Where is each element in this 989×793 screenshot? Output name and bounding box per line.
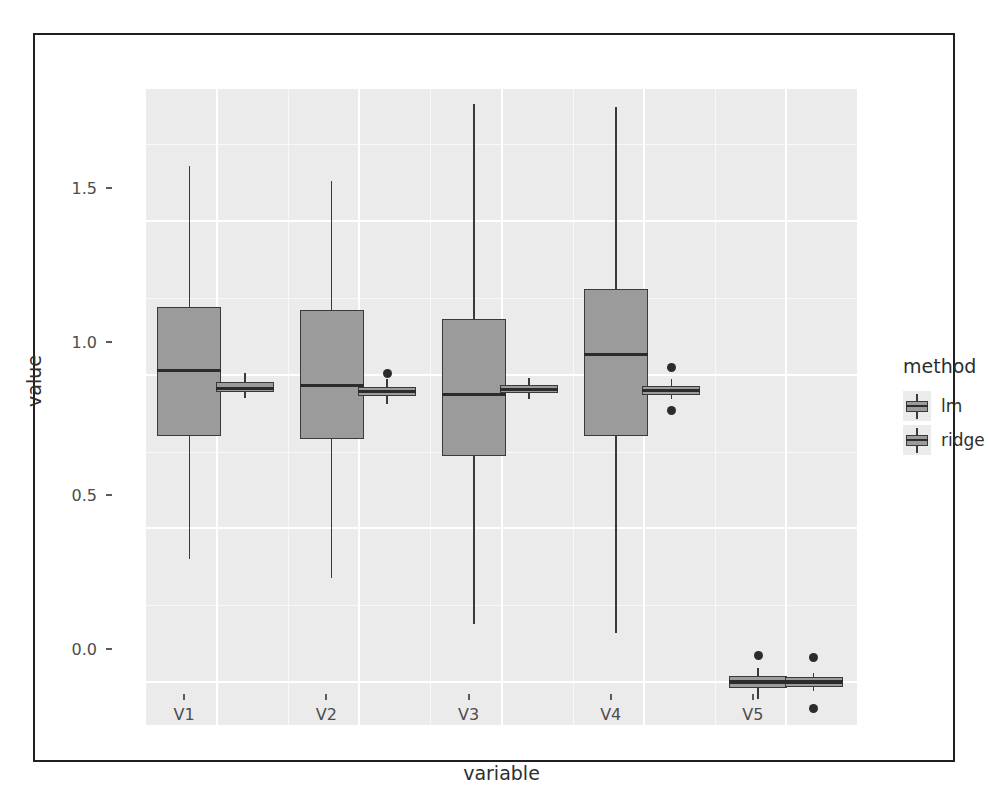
whisker-upper bbox=[244, 373, 246, 382]
legend-label: lm bbox=[941, 396, 962, 416]
legend-items: lmridge bbox=[903, 389, 989, 457]
whisker-upper bbox=[331, 181, 333, 310]
legend-item-ridge[interactable]: ridge bbox=[903, 423, 989, 457]
outlier-point bbox=[383, 369, 392, 378]
box bbox=[584, 289, 648, 436]
whisker-lower bbox=[244, 392, 246, 398]
chart-figure: value 0.00.51.01.5 V1V2V3V4V5 variable m… bbox=[0, 0, 989, 793]
legend: method lmridge bbox=[903, 355, 989, 457]
whisker-upper bbox=[671, 379, 673, 386]
gridline-x-major bbox=[785, 89, 787, 725]
whisker-lower bbox=[813, 687, 815, 692]
x-tick-label-v3: V3 bbox=[458, 705, 479, 724]
x-tick-mark bbox=[325, 694, 327, 700]
gridline-x-minor bbox=[288, 89, 289, 725]
outlier-point bbox=[667, 363, 676, 372]
whisker-upper bbox=[528, 378, 530, 385]
y-tick-mark bbox=[106, 494, 112, 496]
whisker-upper bbox=[189, 166, 191, 307]
whisker-upper bbox=[615, 107, 617, 288]
median-line bbox=[300, 384, 364, 387]
outlier-point bbox=[809, 704, 818, 713]
legend-whisker-up bbox=[916, 394, 918, 401]
median-line bbox=[584, 353, 648, 356]
median-line bbox=[500, 388, 558, 391]
figure-border: value 0.00.51.01.5 V1V2V3V4V5 variable m… bbox=[33, 33, 955, 762]
x-axis-title: variable bbox=[146, 762, 857, 784]
legend-median bbox=[906, 439, 928, 441]
legend-key-icon bbox=[903, 391, 931, 421]
whisker-lower bbox=[331, 439, 333, 577]
median-line bbox=[358, 390, 416, 393]
whisker-lower bbox=[528, 393, 530, 399]
box bbox=[300, 310, 364, 439]
median-line bbox=[442, 393, 506, 396]
legend-whisker-up bbox=[916, 428, 918, 435]
legend-item-lm[interactable]: lm bbox=[903, 389, 989, 423]
whisker-upper bbox=[386, 379, 388, 387]
outlier-point bbox=[667, 406, 676, 415]
gridline-x-minor bbox=[573, 89, 574, 725]
y-tick-label: 0.0 bbox=[72, 639, 97, 658]
median-line bbox=[785, 680, 843, 683]
y-tick-mark bbox=[106, 341, 112, 343]
legend-title: method bbox=[903, 355, 989, 377]
x-tick-label-v1: V1 bbox=[174, 705, 195, 724]
legend-whisker-down bbox=[916, 412, 918, 419]
median-line bbox=[157, 369, 221, 372]
whisker-lower bbox=[386, 396, 388, 404]
x-tick-mark bbox=[183, 694, 185, 700]
y-tick-label: 0.5 bbox=[72, 486, 97, 505]
whisker-upper bbox=[473, 104, 475, 319]
legend-median bbox=[906, 405, 928, 407]
x-tick-label-v2: V2 bbox=[316, 705, 337, 724]
whisker-lower bbox=[757, 688, 759, 699]
y-tick-label: 1.0 bbox=[72, 332, 97, 351]
whisker-lower bbox=[615, 436, 617, 633]
outlier-point bbox=[809, 653, 818, 662]
plot-panel bbox=[146, 89, 857, 725]
whisker-lower bbox=[473, 456, 475, 623]
x-tick-mark bbox=[752, 694, 754, 700]
legend-label: ridge bbox=[941, 430, 985, 450]
y-tick-label: 1.5 bbox=[72, 179, 97, 198]
y-axis-title: value bbox=[23, 355, 45, 407]
gridline-x-minor bbox=[715, 89, 716, 725]
whisker-lower bbox=[189, 436, 191, 559]
y-tick-mark bbox=[106, 187, 112, 189]
whisker-lower bbox=[671, 395, 673, 400]
outlier-point bbox=[754, 651, 763, 660]
gridline-x-minor bbox=[430, 89, 431, 725]
x-tick-label-v5: V5 bbox=[742, 705, 763, 724]
legend-key-icon bbox=[903, 425, 931, 455]
x-tick-mark bbox=[468, 694, 470, 700]
y-tick-mark bbox=[106, 648, 112, 650]
x-tick-mark bbox=[610, 694, 612, 700]
legend-whisker-down bbox=[916, 446, 918, 453]
whisker-upper bbox=[757, 668, 759, 676]
x-tick-label-v4: V4 bbox=[600, 705, 621, 724]
box bbox=[442, 319, 506, 456]
median-line bbox=[642, 389, 700, 392]
median-line bbox=[729, 680, 787, 683]
median-line bbox=[216, 387, 274, 390]
